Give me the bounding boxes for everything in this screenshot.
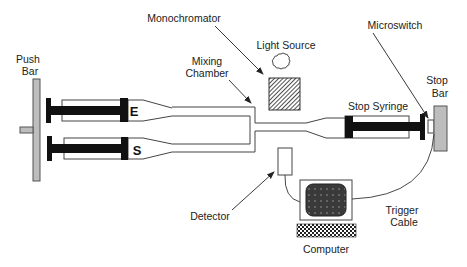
detector-cable: [285, 175, 300, 202]
stop-syringe-label: Stop Syringe: [348, 100, 408, 112]
stopped-flow-diagram: Push Bar E S Stop Syringe Microswitch: [0, 0, 467, 267]
microswitch: [428, 120, 434, 133]
stop-bar-label-1: Stop: [426, 74, 448, 86]
push-bar-label-1: Push: [16, 53, 40, 65]
syringe-e: [46, 98, 172, 123]
mixing-tubing: [172, 107, 345, 152]
light-source-label: Light Source: [257, 39, 316, 51]
mixing-chamber-label-2: Chamber: [185, 67, 229, 79]
stop-bar: [434, 106, 447, 151]
stop-syringe: [345, 114, 425, 140]
monochromator: [269, 78, 300, 110]
trigger-cable: [352, 134, 434, 199]
push-bar-label-2: Bar: [22, 65, 39, 77]
mixing-chamber-label-1: Mixing: [192, 55, 223, 67]
light-source-icon: [272, 53, 290, 69]
computer: [297, 180, 356, 237]
trigger-cable-label-2: Cable: [390, 216, 418, 228]
detector: [278, 148, 292, 175]
microswitch-label: Microswitch: [368, 19, 423, 31]
mixing-chamber-arrow: [229, 80, 251, 103]
push-bar: [20, 79, 40, 181]
syringe-s-label: S: [133, 143, 142, 158]
trigger-cable-label-1: Trigger: [386, 204, 419, 216]
computer-label: Computer: [303, 243, 350, 255]
syringe-s: [47, 136, 172, 161]
stop-bar-label-2: Bar: [432, 87, 449, 99]
detector-arrow: [232, 172, 274, 210]
syringe-e-label: E: [130, 104, 139, 119]
detector-label: Detector: [190, 210, 230, 222]
monochromator-label: Monochromator: [147, 12, 221, 24]
